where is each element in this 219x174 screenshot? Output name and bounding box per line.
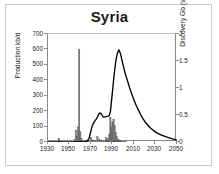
discovery-bar: [103, 141, 104, 142]
x-tickmark: [176, 141, 177, 144]
plot-area: [47, 33, 176, 141]
y-left-tick-0: 0: [19, 138, 43, 145]
y-right-tick-1p5: 1.5: [179, 57, 203, 64]
discovery-bar: [123, 141, 124, 142]
discovery-bar: [99, 139, 100, 142]
x-tickmark: [111, 141, 112, 144]
y-left-tick-700: 700: [19, 30, 43, 37]
y-left-tick-500: 500: [19, 60, 43, 67]
x-tickmark: [90, 141, 91, 144]
y-left-tickmark: [44, 95, 47, 96]
discovery-bar: [125, 141, 126, 142]
discovery-bar: [79, 49, 80, 142]
y-left-tick-200: 200: [19, 107, 43, 114]
y-right-tickmark: [176, 114, 179, 115]
y-left-tick-100: 100: [19, 122, 43, 129]
y-left-tickmark: [44, 48, 47, 49]
discovery-bar: [97, 137, 98, 142]
y-left-tickmark: [44, 126, 47, 127]
y-left-tickmark: [44, 33, 47, 34]
discovery-bar: [95, 141, 96, 142]
x-tickmark: [47, 141, 48, 144]
x-tickmark: [133, 141, 134, 144]
y-right-tick-2: 2: [179, 30, 203, 37]
y-right-tick-1: 1: [179, 84, 203, 91]
y-right-tick-0: 0: [179, 138, 203, 145]
discovery-bar: [92, 140, 93, 142]
y-axis-right-label: Discovery Gb (shaded): [179, 0, 186, 54]
y-right-tickmark: [176, 60, 179, 61]
y-right-tick-0p5: 0.5: [179, 111, 203, 118]
y-left-tickmark: [44, 79, 47, 80]
discovery-bar: [101, 140, 102, 142]
x-tick-2050: 2050: [162, 145, 190, 152]
y-left-tick-300: 300: [19, 91, 43, 98]
y-left-tick-600: 600: [19, 45, 43, 52]
y-right-tickmark: [176, 33, 179, 34]
page-title: Syria: [0, 9, 219, 24]
x-tickmark: [68, 141, 69, 144]
y-left-tick-400: 400: [19, 76, 43, 83]
chart-figure: Syria Production kb/d Discovery Gb (shad…: [0, 0, 219, 174]
y-right-tickmark: [176, 87, 179, 88]
x-tickmark: [154, 141, 155, 144]
chart-canvas: [48, 34, 177, 142]
y-left-tickmark: [44, 64, 47, 65]
discovery-bar: [120, 141, 121, 142]
y-left-tickmark: [44, 110, 47, 111]
